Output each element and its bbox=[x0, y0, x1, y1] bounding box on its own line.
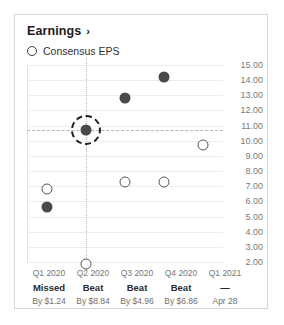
legend-item-label: Consensus EPS bbox=[43, 45, 119, 57]
data-point-consensus[interactable] bbox=[41, 184, 52, 195]
y-axis-tick: 5.00 bbox=[245, 212, 263, 222]
earnings-card: Earnings › Consensus EPS 15.0014.0013.00… bbox=[14, 14, 268, 309]
gridline bbox=[27, 80, 223, 81]
y-axis-tick: 3.00 bbox=[245, 242, 263, 252]
gridline bbox=[27, 262, 223, 263]
x-axis-column[interactable]: Q1 2020MissedBy $1.24 bbox=[27, 268, 71, 306]
quarter-label: Q1 2020 bbox=[27, 268, 71, 278]
chevron-right-icon[interactable]: › bbox=[86, 26, 90, 37]
gridline bbox=[27, 217, 223, 218]
x-axis-column[interactable]: Q4 2020BeatBy $6.86 bbox=[159, 268, 203, 306]
x-axis-column[interactable]: Q2 2020BeatBy $8.84 bbox=[71, 268, 115, 306]
result-label: Missed bbox=[27, 282, 71, 293]
gridline bbox=[27, 110, 223, 111]
y-axis-tick: 11.00 bbox=[241, 121, 263, 131]
x-axis-column[interactable]: Q1 2021—Apr 28 bbox=[203, 268, 247, 306]
y-axis-tick: 7.00 bbox=[245, 181, 263, 191]
y-axis-tick: 2.00 bbox=[245, 257, 263, 267]
gridline bbox=[27, 65, 223, 66]
quarter-label: Q2 2020 bbox=[71, 268, 115, 278]
legend: Consensus EPS bbox=[27, 45, 119, 57]
y-axis-labels: 15.0014.0013.0012.0011.0010.009.008.007.… bbox=[227, 65, 267, 262]
result-label: Beat bbox=[71, 282, 115, 293]
gridline bbox=[27, 171, 223, 172]
surprise-amount-label: By $4.96 bbox=[115, 296, 159, 306]
y-axis-tick: 10.00 bbox=[240, 136, 263, 146]
data-point-actual[interactable] bbox=[159, 72, 170, 83]
gridline bbox=[27, 156, 223, 157]
y-axis-tick: 6.00 bbox=[245, 196, 263, 206]
gridline bbox=[27, 247, 223, 248]
consensus-circle-icon bbox=[27, 46, 37, 56]
result-label: Beat bbox=[115, 282, 159, 293]
x-axis-column[interactable]: Q3 2020BeatBy $4.96 bbox=[115, 268, 159, 306]
y-axis-tick: 9.00 bbox=[245, 151, 263, 161]
surprise-amount-label: Apr 28 bbox=[203, 296, 247, 306]
page-title: Earnings bbox=[27, 24, 81, 38]
crosshair-vertical bbox=[86, 57, 87, 270]
x-axis-labels: Q1 2020MissedBy $1.24Q2 2020BeatBy $8.84… bbox=[27, 268, 267, 306]
result-label: — bbox=[203, 282, 247, 293]
quarter-label: Q1 2021 bbox=[203, 268, 247, 278]
y-axis-tick: 8.00 bbox=[245, 166, 263, 176]
y-axis-tick: 14.00 bbox=[240, 75, 263, 85]
data-point-consensus[interactable] bbox=[120, 176, 131, 187]
quarter-label: Q3 2020 bbox=[115, 268, 159, 278]
surprise-amount-label: By $1.24 bbox=[27, 296, 71, 306]
data-point-consensus[interactable] bbox=[198, 140, 209, 151]
result-label: Beat bbox=[159, 282, 203, 293]
data-point-consensus[interactable] bbox=[159, 176, 170, 187]
gridline bbox=[27, 201, 223, 202]
data-point-actual[interactable] bbox=[41, 202, 52, 213]
data-point-actual[interactable] bbox=[120, 93, 131, 104]
y-axis-tick: 15.00 bbox=[240, 60, 263, 70]
quarter-label: Q4 2020 bbox=[159, 268, 203, 278]
gridline bbox=[27, 232, 223, 233]
gridline bbox=[27, 141, 223, 142]
surprise-amount-label: By $6.86 bbox=[159, 296, 203, 306]
scatter-plot[interactable] bbox=[27, 65, 223, 262]
y-axis-tick: 13.00 bbox=[240, 90, 263, 100]
crosshair-horizontal bbox=[27, 130, 223, 131]
gridline bbox=[27, 126, 223, 127]
surprise-amount-label: By $8.84 bbox=[71, 296, 115, 306]
card-header[interactable]: Earnings › bbox=[27, 24, 90, 38]
y-axis-tick: 4.00 bbox=[245, 227, 263, 237]
y-axis-tick: 12.00 bbox=[240, 105, 263, 115]
selected-point-ring[interactable] bbox=[71, 115, 101, 145]
